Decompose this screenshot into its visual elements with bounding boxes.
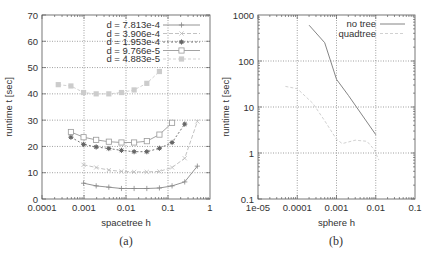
y-axis-label: runtime t [sec] [220,77,231,137]
series-quadtree [285,86,379,160]
legend: d = 7.813e-4d = 3.906e-4d = 1.953e-4d = … [106,19,200,64]
x-tick-label: 1 [207,202,212,213]
y-tick-label: 30 [27,115,38,126]
y-tick-label: 1 [249,148,254,159]
x-tick-label: 0.1 [161,202,174,213]
y-tick-label: 70 [27,10,38,21]
legend: no treequadtree [338,18,405,39]
y-tick-label: 0.1 [241,194,254,205]
y-axis-label: runtime t [sec] [3,77,14,137]
x-tick-label: 0.0001 [283,202,312,213]
y-tick-label: 1000 [233,10,254,21]
chart-b: 1e-050.00010.0010.010.10.11101001000sphe… [220,10,422,249]
legend-label: quadtree [338,28,376,39]
x-tick-label: 0.001 [325,202,349,213]
y-tick-label: 100 [238,56,254,67]
grid [258,15,415,199]
y-tick-label: 0 [33,194,38,205]
y-tick-label: 10 [27,167,38,178]
figure: 0.00010.0010.010.11010203040506070spacet… [0,0,431,260]
x-tick-label: 0.1 [408,202,421,213]
x-tick-label: 0.001 [72,202,96,213]
x-tick-label: 0.01 [367,202,386,213]
y-tick-label: 20 [27,141,38,152]
series-d-4-883e-5 [56,69,162,97]
y-tick-label: 10 [243,102,254,113]
figure-caption: (a) [119,234,132,248]
y-tick-label: 50 [27,62,38,73]
y-tick-label: 60 [27,36,38,47]
x-axis-label: sphere h [318,217,355,228]
y-tick-label: 40 [27,88,38,99]
figure-caption: (b) [329,234,343,248]
x-axis-label: spacetree h [101,217,151,228]
legend-label: d = 4.883e-5 [106,53,160,64]
x-tick-label: 0.01 [117,202,136,213]
series-no-tree [309,25,376,135]
chart-a: 0.00010.0010.010.11010203040506070spacet… [3,10,213,249]
